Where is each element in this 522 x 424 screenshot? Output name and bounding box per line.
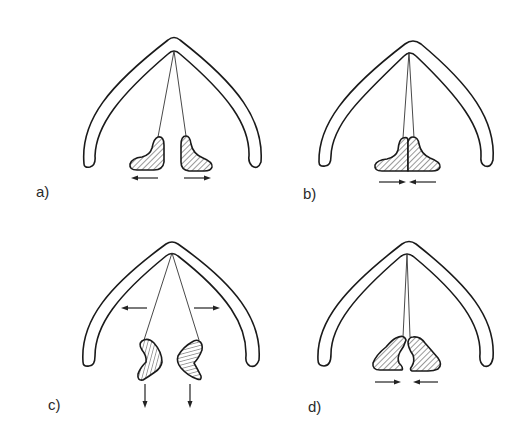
arrow-arch-right-c (194, 306, 220, 311)
panel-label-b: b) (303, 185, 316, 202)
arrow-down-right-c (188, 384, 193, 408)
panel-d: d) (308, 242, 493, 416)
panel-c: c) (48, 242, 259, 413)
string-left-a (158, 51, 174, 137)
panel-label-c: c) (48, 396, 61, 413)
panel-b: b) (303, 41, 493, 202)
arrow-left-b (409, 180, 436, 185)
arrow-left-a (131, 176, 158, 181)
block-right-c (177, 340, 202, 379)
arrow-arch-left-c (121, 306, 147, 311)
arrow-right-a (184, 176, 211, 181)
panel-label-a: a) (36, 183, 49, 200)
block-left-b (375, 137, 408, 171)
arch-c (83, 242, 259, 366)
string-right-a (174, 51, 186, 136)
block-left-a (130, 137, 164, 170)
string-left-b (403, 52, 409, 138)
string-right-d (407, 254, 410, 337)
block-right-d (408, 337, 441, 371)
panel-label-d: d) (308, 398, 321, 415)
block-right-b (408, 137, 440, 171)
panel-a: a) (36, 38, 261, 201)
block-left-c (138, 339, 162, 380)
arrow-down-left-c (143, 384, 148, 408)
block-left-d (373, 336, 406, 370)
arrow-left-d (413, 380, 438, 385)
arrow-right-b (379, 180, 406, 185)
string-right-b (409, 52, 414, 138)
string-left-d (403, 254, 407, 337)
block-right-a (181, 136, 212, 171)
arrow-right-d (375, 380, 401, 385)
figure-canvas: a) b) (0, 0, 522, 424)
arch-d (318, 242, 493, 367)
